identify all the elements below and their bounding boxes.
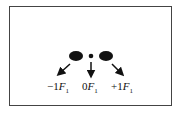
- label-minus-1: −1F1: [47, 80, 69, 95]
- spot-minus-1: [69, 51, 83, 61]
- diffraction-graphic: [0, 0, 182, 118]
- arrow-minus-1-icon: [60, 64, 70, 73]
- label-zero: 0F1: [82, 80, 98, 95]
- label-plus-1: +1F1: [111, 80, 133, 95]
- spot-plus-1: [99, 51, 113, 61]
- spot-zero: [89, 54, 94, 59]
- arrow-plus-1-icon: [112, 64, 121, 73]
